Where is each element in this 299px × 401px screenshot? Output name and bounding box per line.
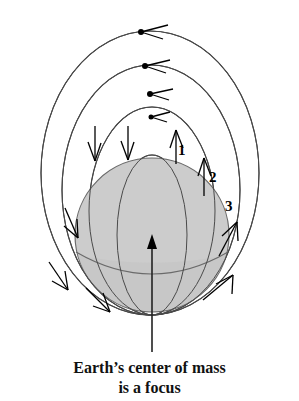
figure-caption: Earth’s center of mass is a focus — [0, 358, 299, 398]
orbit-label-2: 2 — [209, 170, 217, 185]
orbit-diagram — [0, 0, 299, 401]
left-arrow-orbit-1 — [121, 126, 134, 160]
left-arrow-orbit-4 — [49, 262, 68, 290]
caption-line-2: is a focus — [0, 378, 299, 398]
orbit-label-1: 1 — [178, 143, 186, 158]
orbit-label-3: 3 — [225, 199, 233, 214]
apex-arrow-orbit-1 — [149, 112, 171, 122]
apex-arrow-orbit-2 — [147, 89, 173, 100]
caption-line-1: Earth’s center of mass — [0, 358, 299, 378]
